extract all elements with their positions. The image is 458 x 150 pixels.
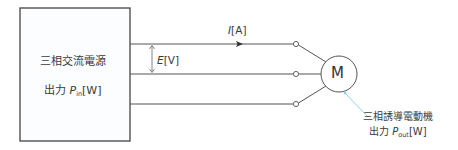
motor-title: 三相誘導電動機 xyxy=(363,108,433,123)
leader-dot xyxy=(344,92,347,95)
source-output-unit: [W] xyxy=(82,84,101,97)
terminal-3 xyxy=(293,101,298,106)
source-output-prefix: 出力 xyxy=(44,84,70,97)
voltage-symbol: E xyxy=(157,54,164,66)
motor-output-unit: [W] xyxy=(409,126,427,137)
motor-output-subscript: out xyxy=(398,131,409,139)
current-label: I[A] xyxy=(228,24,247,36)
voltage-label: E[V] xyxy=(157,54,179,66)
power-source-box xyxy=(20,8,130,141)
motor-output-label: 出力 Pout[W] xyxy=(369,123,427,139)
motor-wire-1 xyxy=(299,45,327,62)
terminal-2 xyxy=(293,71,298,76)
motor-output-prefix: 出力 xyxy=(369,126,392,137)
motor-symbol: M xyxy=(331,64,344,82)
current-unit: [A] xyxy=(231,24,246,36)
motor-wire-3 xyxy=(299,86,327,103)
source-title: 三相交流電源 xyxy=(40,52,106,68)
source-output-label: 出力 Pin[W] xyxy=(44,81,102,98)
voltage-unit: [V] xyxy=(164,54,179,66)
terminal-1 xyxy=(293,41,298,46)
